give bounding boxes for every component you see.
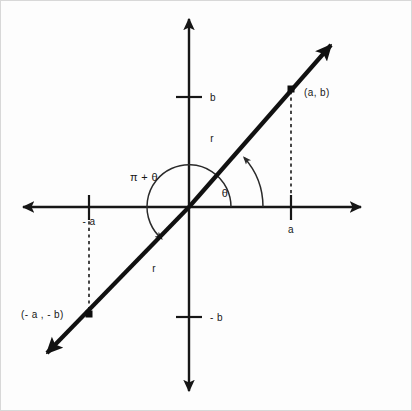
- labels-group: (a, b) (- a , - b) b - b a - a r r θ π +…: [21, 87, 330, 323]
- angle-arc-theta: [244, 158, 263, 208]
- label-radius-upper: r: [210, 133, 214, 144]
- ray-lower-left: [47, 207, 189, 353]
- figure-canvas: (a, b) (- a , - b) b - b a - a r r θ π +…: [0, 0, 412, 411]
- label-point-a-b: (a, b): [304, 87, 330, 98]
- angle-arcs-group: [147, 158, 263, 239]
- label-angle-theta: θ: [222, 187, 229, 199]
- label-tick-negative-a: - a: [83, 216, 96, 227]
- label-tick-negative-b: - b: [210, 312, 223, 323]
- label-point-negative-a-b: (- a , - b): [21, 309, 64, 320]
- label-angle-pi-plus-theta: π + θ: [130, 171, 158, 183]
- ray-upper-right: [189, 45, 331, 207]
- label-radius-lower: r: [152, 263, 156, 274]
- label-tick-b: b: [210, 92, 216, 103]
- point-marker-negative-a-b: [86, 311, 93, 318]
- point-marker-a-b: [288, 86, 295, 93]
- coordinate-diagram: (a, b) (- a , - b) b - b a - a r r θ π +…: [1, 1, 412, 411]
- label-tick-a: a: [288, 224, 294, 235]
